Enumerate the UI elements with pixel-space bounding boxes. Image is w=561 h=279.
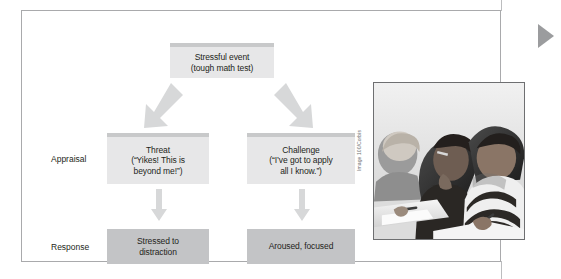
flow-box-challenge-label: Challenge (“I’ve got to apply all I know…	[269, 145, 332, 177]
flow-box-stressful-event-label: Stressful event (tough math test)	[191, 52, 254, 73]
triangle-right-icon	[538, 24, 554, 48]
arrow-down-right-icon	[274, 83, 318, 129]
row-label-response: Response	[51, 242, 89, 252]
arrow-down-icon-right	[294, 189, 310, 222]
flow-box-stressed-to-distraction-label: Stressed to distraction	[137, 236, 179, 257]
flow-box-stressful-event: Stressful event (tough math test)	[170, 43, 274, 78]
flow-box-aroused-focused: Aroused, focused	[247, 229, 355, 264]
flow-box-threat: Threat (“Yikes! This is beyond me!”)	[107, 133, 209, 184]
photo-students-taking-test	[373, 82, 525, 240]
figure-panel: Appraisal Response Stressful event (toug…	[21, 10, 501, 262]
arrow-down-left-icon	[140, 83, 184, 129]
frame-bleed-rule-top	[501, 0, 502, 11]
flow-box-stressed-to-distraction: Stressed to distraction	[107, 229, 209, 264]
flow-box-aroused-focused-label: Aroused, focused	[269, 241, 334, 252]
flow-box-threat-label: Threat (“Yikes! This is beyond me!”)	[131, 145, 185, 177]
photo-credit: Image 100/Corbis	[356, 101, 362, 171]
flow-box-challenge: Challenge (“I’ve got to apply all I know…	[247, 133, 355, 184]
arrow-down-icon-left	[151, 189, 167, 222]
frame-bleed-rule-bottom	[501, 261, 502, 279]
row-label-appraisal: Appraisal	[51, 154, 86, 164]
